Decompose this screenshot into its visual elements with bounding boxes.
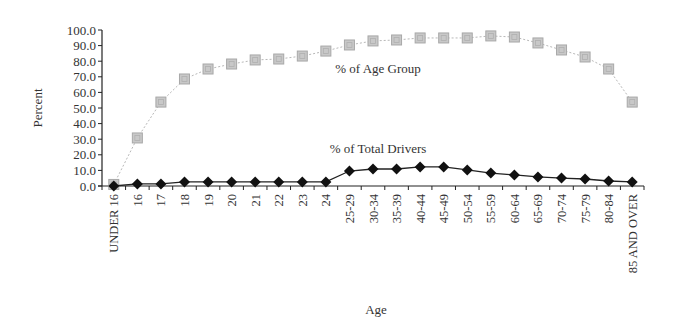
line-chart: 0.010.020.030.040.050.060.070.080.090.01… [0, 0, 677, 333]
diamond-marker [580, 173, 591, 184]
square-marker [392, 35, 402, 45]
square-marker [321, 46, 331, 56]
square-marker [179, 74, 189, 84]
square-marker [250, 55, 260, 65]
diamond-marker [155, 178, 166, 189]
square-marker [344, 40, 354, 50]
x-tick-label: 75-79 [579, 194, 593, 223]
square-marker [627, 97, 637, 107]
y-tick-label: 0.0 [80, 179, 96, 194]
y-tick-label: 40.0 [73, 116, 96, 131]
square-marker [274, 54, 284, 64]
x-tick-label: 50-54 [461, 193, 475, 223]
x-tick-label: 60-64 [508, 193, 522, 223]
y-tick-label: 20.0 [73, 147, 96, 162]
x-axis-title: Age [365, 302, 387, 317]
y-axis-title: Percent [30, 88, 45, 127]
diamond-marker [368, 163, 379, 174]
x-tick-label: 55-59 [484, 194, 498, 223]
x-tick-label: 80-84 [602, 193, 616, 223]
y-axis-ticks: 0.010.020.030.040.050.060.070.080.090.01… [67, 23, 102, 194]
x-tick-label: 19 [202, 194, 216, 207]
y-tick-label: 80.0 [73, 54, 96, 69]
square-marker [462, 33, 472, 43]
diamond-marker [132, 178, 143, 189]
x-tick-label: 17 [154, 194, 168, 207]
series-labels: % of Age Group% of Total Drivers [330, 61, 427, 156]
diamond-marker [556, 173, 567, 184]
x-tick-label: 23 [296, 194, 310, 207]
square-marker [486, 31, 496, 41]
square-marker [604, 64, 614, 74]
x-tick-label: 40-44 [414, 193, 428, 223]
diamond-marker [603, 176, 614, 187]
y-tick-label: 50.0 [73, 101, 96, 116]
square-marker [415, 33, 425, 43]
series-label: % of Age Group [335, 61, 421, 76]
series-of-total-drivers [108, 161, 637, 191]
diamond-marker [415, 161, 426, 172]
x-tick-label: UNDER 16 [107, 194, 121, 253]
square-marker [227, 59, 237, 69]
square-marker [132, 133, 142, 143]
square-marker [439, 33, 449, 43]
square-marker [509, 32, 519, 42]
x-tick-label: 20 [225, 194, 239, 207]
x-tick-label: 21 [249, 194, 263, 207]
square-marker [533, 38, 543, 48]
square-marker [203, 64, 213, 74]
x-tick-label: 24 [319, 193, 333, 206]
square-marker [368, 36, 378, 46]
diamond-marker [509, 169, 520, 180]
y-tick-label: 30.0 [73, 132, 96, 147]
x-tick-label: 30-34 [367, 193, 381, 223]
diamond-marker [485, 168, 496, 179]
x-tick-label: 16 [131, 194, 145, 207]
x-tick-label: 70-74 [555, 193, 569, 223]
square-marker [557, 45, 567, 55]
y-tick-label: 100.0 [67, 23, 96, 38]
diamond-marker [391, 163, 402, 174]
x-tick-label: 35-39 [390, 194, 404, 223]
diamond-marker [532, 171, 543, 182]
diamond-marker [344, 166, 355, 177]
y-tick-label: 10.0 [73, 163, 96, 178]
series-label: % of Total Drivers [330, 141, 427, 156]
x-tick-label: 65-69 [531, 194, 545, 223]
square-marker [580, 52, 590, 62]
x-tick-label: 18 [178, 194, 192, 207]
diamond-marker [438, 161, 449, 172]
x-tick-label: 45-49 [437, 194, 451, 223]
square-marker [297, 51, 307, 61]
diamond-marker [462, 164, 473, 175]
y-tick-label: 70.0 [73, 69, 96, 84]
series-layer [108, 31, 637, 192]
y-tick-label: 60.0 [73, 85, 96, 100]
x-tick-label: 22 [272, 194, 286, 207]
square-marker [156, 97, 166, 107]
y-tick-label: 90.0 [73, 38, 96, 53]
x-tick-label: 25-29 [343, 194, 357, 223]
x-tick-label: 85 AND OVER [626, 193, 640, 273]
x-axis-ticks: UNDER 1616171819202122232425-2930-3435-3… [102, 186, 644, 273]
